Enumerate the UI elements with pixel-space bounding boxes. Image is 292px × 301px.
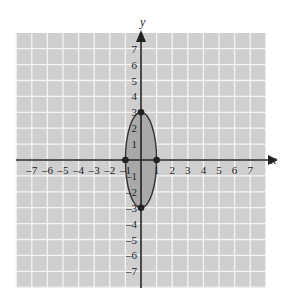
x-tick-label: –5	[57, 164, 70, 176]
y-tick-label: –1	[125, 170, 137, 182]
y-tick-label: –7	[125, 265, 138, 277]
y-tick-label: 3	[132, 106, 138, 118]
y-tick-label: 4	[132, 90, 138, 102]
x-tick-label: 3	[185, 164, 191, 176]
y-tick-label: –2	[125, 186, 137, 198]
y-tick-label: –6	[125, 249, 138, 261]
y-tick-label: 1	[132, 138, 138, 150]
point-marker	[138, 204, 145, 211]
point-marker	[138, 109, 145, 116]
point-marker	[153, 157, 160, 164]
x-tick-label: 7	[247, 164, 253, 176]
y-tick-label: –3	[125, 202, 138, 214]
point-marker	[122, 157, 129, 164]
x-axis-label: x	[270, 153, 277, 167]
x-tick-label: 2	[169, 164, 175, 176]
coordinate-plane: –7–6–5–4–3–2–112345677654321–1–2–3–4–5–6…	[0, 0, 292, 301]
x-tick-label: 6	[232, 164, 238, 176]
x-tick-label: –7	[25, 164, 38, 176]
y-tick-label: 6	[132, 59, 138, 71]
y-tick-label: 5	[132, 75, 138, 87]
x-tick-label: 4	[201, 164, 207, 176]
y-tick-label: 7	[132, 43, 138, 55]
x-tick-label: –3	[88, 164, 101, 176]
y-tick-label: 2	[132, 122, 138, 134]
x-tick-label: 5	[216, 164, 222, 176]
y-tick-label: –4	[125, 218, 138, 230]
y-axis-label: y	[139, 15, 146, 29]
x-tick-label: –4	[72, 164, 85, 176]
x-tick-label: –2	[103, 164, 115, 176]
y-tick-label: –5	[125, 234, 138, 246]
x-tick-label: –6	[41, 164, 54, 176]
x-tick-label: 1	[154, 164, 160, 176]
